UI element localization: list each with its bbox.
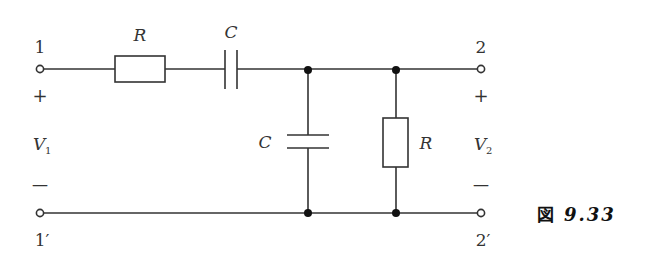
junction-dot (304, 209, 312, 217)
label-series-resistor: R (133, 25, 147, 45)
terminal-2-prime (477, 209, 484, 216)
label-shunt-capacitor: C (258, 132, 271, 152)
label-terminal-2-prime: 2′ (476, 230, 491, 250)
svg-text:1: 1 (45, 145, 51, 156)
circuit-diagram: R C C R 1 + — 1′ 2 + — 2′ V 1 V 2 図 9.33 (0, 0, 648, 261)
polarity-plus-out: + (473, 85, 488, 106)
label-shunt-resistor: R (419, 133, 433, 153)
shunt-resistor (383, 118, 408, 167)
polarity-minus-out: — (473, 175, 489, 194)
svg-text:2: 2 (486, 145, 492, 156)
terminal-1 (36, 65, 43, 72)
junction-dot (304, 66, 312, 74)
terminal-2 (477, 65, 484, 72)
polarity-plus-in: + (32, 85, 47, 106)
terminal-1-prime (36, 209, 43, 216)
figure-caption: 図 9.33 (537, 204, 616, 225)
caption-number: 9.33 (564, 204, 616, 225)
junction-dot (392, 66, 400, 74)
label-series-capacitor: C (224, 22, 237, 42)
polarity-minus-in: — (32, 175, 48, 194)
junction-dot (392, 209, 400, 217)
label-terminal-1: 1 (35, 37, 46, 57)
voltage-v2: V 2 (474, 134, 492, 156)
label-terminal-2: 2 (476, 37, 487, 57)
label-terminal-1-prime: 1′ (35, 230, 50, 250)
caption-prefix: 図 (537, 205, 554, 225)
series-resistor (115, 56, 165, 82)
voltage-v1: V 1 (33, 134, 51, 156)
